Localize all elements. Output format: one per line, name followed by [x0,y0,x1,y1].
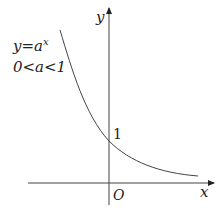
y-axis-label: y [95,8,105,26]
exponential-graph: y x O 1 y=ax 0<a<1 [0,0,223,213]
x-axis-label: x [200,183,209,201]
exponential-curve [60,30,198,176]
condition-label: 0<a<1 [13,58,66,76]
origin-label: O [113,187,125,203]
equation-label: y=ax [12,36,49,55]
y-intercept-label: 1 [113,126,122,142]
